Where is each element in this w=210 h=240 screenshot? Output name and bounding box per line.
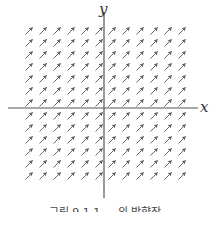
slope-arrow-icon (26, 149, 33, 156)
slope-arrow-icon (123, 64, 130, 71)
slope-arrow-icon (54, 64, 61, 71)
slope-arrow-icon (179, 173, 186, 180)
slope-arrow-icon (68, 161, 75, 168)
slope-arrow-icon (82, 149, 89, 156)
slope-arrow-icon (40, 137, 47, 144)
slope-arrow-icon (137, 173, 144, 180)
slope-arrow-icon (109, 52, 116, 59)
slope-arrow-icon (109, 173, 116, 180)
slope-arrow-icon (82, 88, 89, 95)
slope-arrow-icon (179, 76, 186, 83)
slope-arrow-icon (165, 161, 172, 168)
slope-arrow-icon (165, 64, 172, 71)
slope-arrow-icon (82, 161, 89, 168)
slope-arrow-icon (96, 173, 103, 180)
slope-arrow-icon (137, 88, 144, 95)
slope-arrow-icon (123, 113, 130, 120)
slope-arrow-icon (179, 52, 186, 59)
slope-arrow-icon (165, 88, 172, 95)
slope-arrow-icon (109, 64, 116, 71)
slope-arrow-icon (40, 40, 47, 47)
slope-arrow-icon (137, 28, 144, 35)
slope-arrow-icon (54, 149, 61, 156)
slope-arrow-icon (151, 113, 158, 120)
slope-arrow-icon (179, 149, 186, 156)
slope-arrow-icon (123, 125, 130, 132)
slope-arrow-icon (96, 161, 103, 168)
slope-arrow-icon (165, 113, 172, 120)
slope-arrow-icon (82, 76, 89, 83)
slope-arrow-icon (26, 52, 33, 59)
slope-arrow-icon (82, 173, 89, 180)
slope-arrow-icon (123, 52, 130, 59)
slope-arrow-icon (137, 137, 144, 144)
slope-arrow-icon (96, 100, 103, 107)
slope-arrow-icon (40, 125, 47, 132)
slope-arrow-icon (96, 137, 103, 144)
slope-arrow-icon (179, 137, 186, 144)
slope-arrow-icon (68, 40, 75, 47)
slope-arrow-icon (54, 100, 61, 107)
slope-arrow-icon (137, 100, 144, 107)
slope-arrow-icon (96, 28, 103, 35)
slope-arrow-icon (109, 76, 116, 83)
slope-arrow-icon (96, 64, 103, 71)
slope-arrow-icon (54, 173, 61, 180)
slope-arrow-icon (68, 52, 75, 59)
slope-arrow-icon (179, 64, 186, 71)
slope-arrow-icon (151, 173, 158, 180)
slope-arrow-icon (179, 161, 186, 168)
slope-arrow-icon (40, 149, 47, 156)
slope-arrow-icon (151, 64, 158, 71)
slope-arrow-icon (151, 88, 158, 95)
slope-arrow-icon (82, 125, 89, 132)
slope-arrow-icon (109, 149, 116, 156)
slope-arrow-icon (179, 100, 186, 107)
slope-arrow-icon (165, 100, 172, 107)
slope-arrow-icon (151, 28, 158, 35)
slope-arrow-icon (54, 52, 61, 59)
slope-arrow-icon (109, 88, 116, 95)
slope-arrow-icon (82, 52, 89, 59)
slope-arrow-icon (26, 64, 33, 71)
slope-arrow-icon (109, 100, 116, 107)
slope-arrow-icon (151, 52, 158, 59)
slope-arrow-icon (151, 76, 158, 83)
slope-arrow-icon (82, 100, 89, 107)
slope-arrow-icon (26, 161, 33, 168)
slope-arrow-icon (26, 100, 33, 107)
slope-arrow-icon (123, 161, 130, 168)
slope-arrow-icon (165, 52, 172, 59)
slope-arrow-icon (151, 40, 158, 47)
slope-arrow-icon (137, 161, 144, 168)
slope-arrow-icon (82, 137, 89, 144)
slope-arrow-icon (68, 76, 75, 83)
slope-arrow-icon (68, 137, 75, 144)
figure-caption: 그림 9.1.1 ... 의 방향장 (0, 203, 210, 212)
slope-arrow-icon (179, 28, 186, 35)
slope-arrow-icon (109, 113, 116, 120)
slope-arrow-icon (96, 88, 103, 95)
slope-arrow-icon (26, 88, 33, 95)
slope-arrow-icon (54, 113, 61, 120)
slope-arrow-icon (123, 28, 130, 35)
slope-arrow-icon (54, 125, 61, 132)
slope-arrow-icon (123, 40, 130, 47)
slope-arrow-icon (96, 149, 103, 156)
slope-arrow-icon (68, 64, 75, 71)
slope-arrow-icon (179, 125, 186, 132)
slope-arrow-icon (40, 52, 47, 59)
slope-arrows (26, 28, 186, 180)
slope-arrow-icon (179, 113, 186, 120)
slope-arrow-icon (82, 64, 89, 71)
slope-arrow-icon (123, 137, 130, 144)
slope-arrow-icon (68, 88, 75, 95)
slope-arrow-icon (123, 76, 130, 83)
slope-arrow-icon (96, 125, 103, 132)
slope-arrow-icon (151, 125, 158, 132)
slope-arrow-icon (165, 137, 172, 144)
slope-arrow-icon (179, 88, 186, 95)
slope-arrow-icon (137, 76, 144, 83)
slope-arrow-icon (26, 28, 33, 35)
slope-arrow-icon (26, 125, 33, 132)
